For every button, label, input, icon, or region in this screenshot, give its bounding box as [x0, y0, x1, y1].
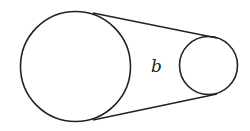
small-pulley-circle	[180, 37, 238, 95]
belt-drive-diagram: b	[0, 0, 250, 131]
diagram-svg: b	[0, 0, 250, 131]
large-pulley-circle	[21, 12, 131, 122]
region-label-b: b	[151, 56, 162, 76]
